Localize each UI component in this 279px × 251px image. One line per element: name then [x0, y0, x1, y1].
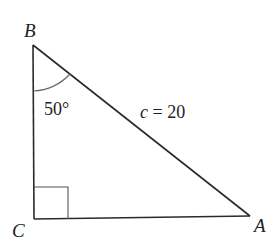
angle-arc-b: [34, 74, 71, 91]
hypotenuse-label: c = 20: [140, 102, 185, 122]
vertex-label-b: B: [24, 20, 36, 41]
side-ca: [34, 216, 250, 219]
vertex-label-a: A: [252, 215, 266, 236]
triangle-diagram: B C A 50° c = 20: [0, 0, 279, 251]
right-angle-marker: [34, 187, 68, 219]
hypotenuse-variable: c: [140, 102, 148, 122]
hypotenuse-value: = 20: [148, 102, 185, 122]
vertex-label-c: C: [12, 220, 25, 241]
angle-label-b: 50°: [44, 99, 69, 119]
side-bc: [33, 45, 34, 219]
side-ab-hypotenuse: [33, 45, 250, 216]
